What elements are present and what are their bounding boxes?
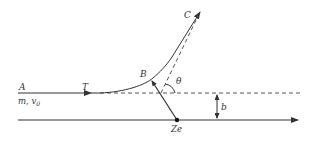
- label-C: C: [184, 10, 191, 20]
- velocity-subscript: 0: [36, 100, 40, 107]
- scattering-diagram: A m, v0 T B C θ b Ze: [0, 0, 313, 141]
- theta-angle-arc: [165, 84, 175, 93]
- label-T: T: [82, 82, 89, 92]
- label-B: B: [139, 69, 147, 79]
- label-A: A: [18, 82, 26, 92]
- trajectory-curve: [100, 12, 200, 93]
- label-mass-velocity: m, v0: [18, 96, 40, 107]
- nucleus-dot: [175, 118, 179, 122]
- label-theta: θ: [176, 76, 182, 86]
- label-b: b: [221, 102, 227, 112]
- label-Ze: Ze: [170, 124, 182, 134]
